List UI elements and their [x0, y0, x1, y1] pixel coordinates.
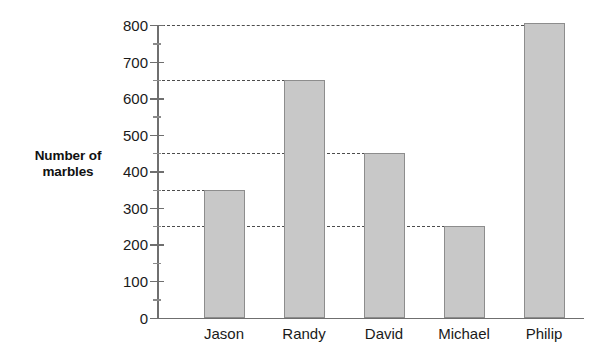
x-axis-line	[157, 318, 584, 320]
y-axis-tick-minor	[153, 226, 161, 227]
y-axis-tick-major	[150, 208, 164, 209]
x-axis-category-label: Philip	[526, 325, 563, 342]
y-axis-tick-minor	[153, 190, 161, 191]
y-axis-tick-minor	[153, 263, 161, 264]
reference-line	[157, 25, 524, 26]
x-axis-category-label: David	[365, 325, 403, 342]
y-axis-tick-minor	[153, 299, 161, 300]
y-axis-tick-label: 300	[123, 200, 148, 215]
y-axis-title-line-2: marbles	[8, 164, 128, 180]
y-axis-tick-major	[150, 98, 164, 99]
bar	[524, 23, 565, 317]
y-axis-tick-major	[150, 281, 164, 282]
y-axis-tick-major	[150, 135, 164, 136]
y-axis-tick-label: 600	[123, 91, 148, 106]
y-axis-tick-label: 0	[140, 310, 148, 325]
y-axis-tick-minor	[153, 116, 161, 117]
x-axis-category-label: Michael	[438, 325, 490, 342]
y-axis-title-line-1: Number of	[8, 148, 128, 164]
bar	[444, 226, 485, 317]
y-axis-tick-major	[150, 244, 164, 245]
bar	[204, 190, 245, 318]
y-axis-title: Number of marbles	[8, 148, 128, 180]
y-axis-tick-minor	[153, 80, 161, 81]
bar-chart: Number of marbles 0100200300400500600700…	[0, 0, 609, 364]
plot-area: 0100200300400500600700800 JasonRandyDavi…	[157, 20, 584, 320]
y-axis-tick-label: 500	[123, 127, 148, 142]
y-axis-tick-label: 200	[123, 237, 148, 252]
y-axis-tick-minor	[153, 153, 161, 154]
y-axis-tick-minor	[153, 43, 161, 44]
bar	[284, 80, 325, 318]
y-axis-tick-label: 700	[123, 54, 148, 69]
y-axis-tick-major	[150, 318, 164, 319]
y-axis-tick-major	[150, 62, 164, 63]
y-axis-tick-label: 800	[123, 18, 148, 33]
y-axis-tick-major	[150, 25, 164, 26]
y-axis-tick-label: 100	[123, 273, 148, 288]
y-axis-tick-major	[150, 171, 164, 172]
x-axis-category-label: Jason	[204, 325, 244, 342]
bar	[364, 153, 405, 318]
y-axis-tick-label: 400	[123, 164, 148, 179]
x-axis-category-label: Randy	[282, 325, 325, 342]
